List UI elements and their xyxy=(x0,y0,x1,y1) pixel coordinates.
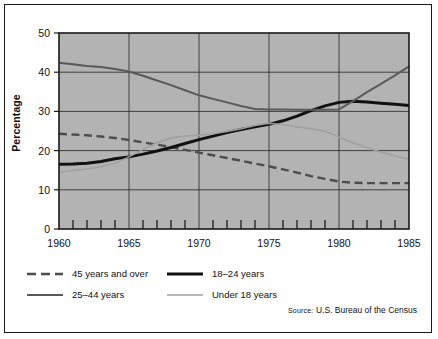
legend-item-45-years-and-over: 45 years and over xyxy=(27,268,167,280)
chart-figure: 01020304050196019651970197519801985 Perc… xyxy=(4,4,432,333)
legend-label: 25–44 years xyxy=(72,290,124,300)
legend-label: 18–24 years xyxy=(212,269,264,279)
legend-row: 45 years and over 18–24 years xyxy=(27,263,307,284)
legend-swatch-solid-thick xyxy=(167,268,203,280)
x-axis-tick-label: 1975 xyxy=(257,237,281,249)
legend-item-under-18-years: Under 18 years xyxy=(167,289,307,301)
legend-item-25-44-years: 25–44 years xyxy=(27,289,167,301)
chart-legend: 45 years and over 18–24 years 25–44 year… xyxy=(27,263,307,305)
y-axis-tick-label: 30 xyxy=(38,105,50,117)
x-axis-tick-label: 1970 xyxy=(187,237,211,249)
legend-swatch-solid-medium xyxy=(27,289,63,301)
x-axis-tick-label: 1985 xyxy=(397,237,421,249)
legend-row: 25–44 years Under 18 years xyxy=(27,284,307,305)
legend-label: 45 years and over xyxy=(72,269,148,279)
legend-swatch-dashed xyxy=(27,268,63,280)
legend-label: Under 18 years xyxy=(212,290,277,300)
legend-item-18-24-years: 18–24 years xyxy=(167,268,307,280)
x-axis-tick-label: 1980 xyxy=(327,237,351,249)
source-prefix: Source: xyxy=(288,307,314,314)
y-axis-tick-label: 0 xyxy=(44,223,50,235)
source-text: U.S. Bureau of the Census xyxy=(316,305,417,315)
x-axis-tick-label: 1965 xyxy=(117,237,141,249)
source-note: Source: U.S. Bureau of the Census xyxy=(288,305,417,315)
x-axis-tick-label: 1960 xyxy=(47,237,71,249)
y-axis-tick-label: 20 xyxy=(38,145,50,157)
y-axis-tick-label: 40 xyxy=(38,66,50,78)
y-axis-tick-label: 50 xyxy=(38,27,50,39)
y-axis-tick-label: 10 xyxy=(38,184,50,196)
legend-swatch-solid-thin xyxy=(167,289,203,301)
